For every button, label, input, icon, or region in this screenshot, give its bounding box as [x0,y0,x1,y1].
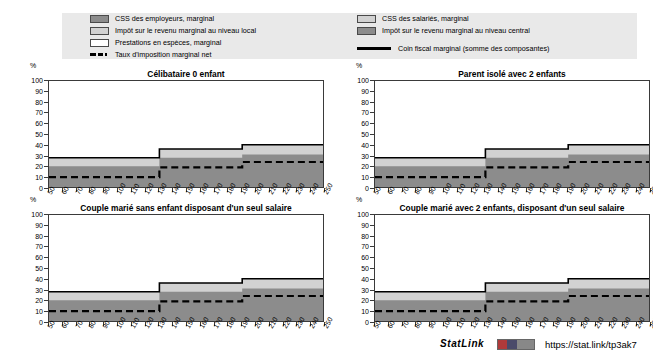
y-axis-tick-mark [370,102,374,103]
y-axis-labels: 1009080706050403020100 [340,214,372,322]
y-axis-tick-mark [44,290,48,291]
swatch-dark-gray-icon [90,15,109,23]
y-axis-tick-label: 20 [35,297,43,304]
legend-item-taux-marginal-net: Taux d'imposition marginal net [90,49,256,60]
y-axis-tick-label: 40 [35,141,43,148]
legend-label: CSS des employeurs, marginal [115,14,214,23]
y-axis-tick-mark [44,300,48,301]
y-axis-labels: 1009080706050403020100 [14,80,46,188]
legend-item-css-employeurs: CSS des employeurs, marginal [90,13,256,24]
y-axis-tick-label: 60 [35,120,43,127]
y-axis-tick-label: 30 [361,286,369,293]
y-axis-tick-mark [44,80,48,81]
statlink-badge-icon [497,339,535,350]
y-axis-tick-label: 10 [361,308,369,315]
plot-frame [48,214,324,322]
legend-item-css-salaries: CSS des salariés, marginal [357,13,549,24]
y-axis-tick-label: 0 [39,319,43,326]
y-axis-unit: % [356,62,362,69]
y-axis-tick-label: 30 [361,152,369,159]
y-axis-tick-mark [44,177,48,178]
y-axis-tick-mark [370,188,374,189]
x-axis-tick-label: 90 [427,319,437,329]
y-axis-tick-mark [370,322,374,323]
statlink-url[interactable]: https://stat.link/tp3ak7 [545,339,637,350]
y-axis-tick-mark [44,188,48,189]
legend-item-prestations: Prestations en espèces, marginal [90,37,256,48]
y-axis-tick-mark [44,311,48,312]
series-svg [375,81,650,188]
y-axis-tick-mark [370,236,374,237]
statlink-footer: StatLink https://stat.link/tp3ak7 [0,336,653,356]
y-axis-tick-mark [44,279,48,280]
y-axis-unit: % [30,196,36,203]
y-axis-tick-label: 70 [35,109,43,116]
y-axis-tick-mark [44,166,48,167]
y-axis-tick-mark [370,290,374,291]
y-axis-tick-mark [44,268,48,269]
y-axis-tick-label: 40 [35,275,43,282]
y-axis-tick-mark [44,257,48,258]
y-axis-tick-label: 100 [357,211,369,218]
x-axis-tick-label: 90 [427,185,437,195]
y-axis-tick-label: 90 [361,87,369,94]
y-axis-tick-label: 90 [361,221,369,228]
y-axis-tick-mark [44,214,48,215]
y-axis-tick-mark [370,123,374,124]
chart-legend: CSS des employeurs, marginal Impôt sur l… [62,13,637,59]
y-axis-tick-label: 80 [35,98,43,105]
legend-label: Impôt sur le revenu marginal au niveau l… [115,26,256,35]
y-axis-tick-label: 80 [35,232,43,239]
swatch-light-gray-icon [357,15,376,23]
series-svg [49,81,324,188]
y-axis-tick-mark [44,225,48,226]
y-axis-tick-label: 40 [361,275,369,282]
y-axis-tick-mark [370,279,374,280]
legend-item-impot-central: Impôt sur le revenu marginal au niveau c… [357,25,549,36]
y-axis-tick-label: 70 [35,243,43,250]
y-axis-tick-mark [370,268,374,269]
y-axis-tick-mark [370,166,374,167]
y-axis-tick-mark [370,80,374,81]
y-axis-tick-mark [44,102,48,103]
y-axis-tick-label: 0 [365,319,369,326]
y-axis-tick-mark [370,145,374,146]
plot-area [48,80,324,188]
y-axis-tick-label: 0 [365,185,369,192]
y-axis-tick-label: 60 [35,254,43,261]
plot-frame [374,214,650,322]
swatch-white-icon [90,39,109,47]
plot-frame [48,80,324,188]
y-axis-tick-mark [370,246,374,247]
plot-area [48,214,324,322]
y-axis-labels: 1009080706050403020100 [340,80,372,188]
y-axis-tick-mark [370,177,374,178]
y-axis-tick-label: 30 [35,152,43,159]
y-axis-tick-label: 60 [361,120,369,127]
legend-label: CSS des salariés, marginal [382,14,469,23]
plot-frame [374,80,650,188]
plot-area [374,80,650,188]
legend-label: Taux d'imposition marginal net [115,50,211,59]
y-axis-tick-mark [44,145,48,146]
chart-title: Couple marié sans enfant disposant d'un … [48,203,324,213]
y-axis-tick-label: 50 [361,131,369,138]
plot-area [374,214,650,322]
y-axis-unit: % [30,62,36,69]
y-axis-tick-label: 100 [31,211,43,218]
x-axis-tick-label: 50 [46,185,56,195]
y-axis-tick-mark [44,112,48,113]
chart-title: Célibataire 0 enfant [48,69,324,79]
legend-column-right: CSS des salariés, marginal Impôt sur le … [357,13,549,55]
y-axis-tick-mark [370,156,374,157]
series-svg [375,215,650,322]
chart-title: Couple marié avec 2 enfants, disposant d… [374,203,650,213]
y-axis-tick-mark [370,257,374,258]
y-axis-tick-label: 20 [361,297,369,304]
y-axis-tick-label: 90 [35,221,43,228]
y-axis-tick-mark [44,156,48,157]
y-axis-tick-label: 40 [361,141,369,148]
y-axis-unit: % [356,196,362,203]
y-axis-tick-mark [370,311,374,312]
y-axis-tick-label: 80 [361,98,369,105]
